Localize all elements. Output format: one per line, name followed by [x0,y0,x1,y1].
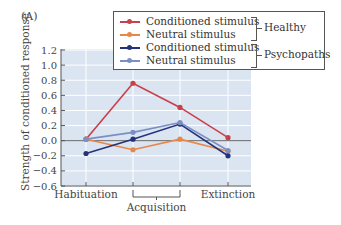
legend-label: Neutral stimulus [146,28,236,40]
y-tick-label: 0.2 [41,120,57,131]
data-point [130,81,135,86]
legend-swatch [120,47,140,49]
data-point [225,135,230,140]
y-tick-label: 1.0 [41,60,57,71]
y-tick-label: 0.8 [41,75,57,86]
data-point [225,153,230,158]
data-point [130,137,135,142]
data-point [130,130,135,135]
legend: Conditioned stimulus Neutral stimulus Co… [113,11,325,70]
bracket-connector [257,55,262,56]
y-tick-label: 0.0 [41,135,57,146]
x-category-label: Acquisition [126,201,187,213]
data-point [83,137,88,142]
legend-label: Conditioned stimulus [146,41,259,53]
y-axis-label: Strength of conditioned response [19,41,31,191]
y-tick-label: 1.2 [41,45,57,56]
x-span-bracket [133,190,180,197]
data-point [225,148,230,153]
legend-item-psychopaths-conditioned: Conditioned stimulus [120,41,259,54]
legend-item-psychopaths-neutral: Neutral stimulus [120,54,236,67]
data-point [177,120,182,125]
legend-item-healthy-neutral: Neutral stimulus [120,28,236,41]
data-point [177,105,182,110]
legend-swatch [120,60,140,62]
bracket-connector [257,28,262,29]
y-tick-label: −0.4 [33,165,57,176]
legend-swatch [120,34,140,36]
legend-label: Conditioned stimulus [146,15,259,27]
data-point [177,137,182,142]
group-bracket-healthy [251,17,257,41]
y-tick-label: 0.4 [41,105,57,116]
x-category-label: Extinction [201,188,256,200]
group-bracket-psychopaths [251,44,257,68]
y-tick-label: −0.2 [33,150,57,161]
y-tick-label: 0.6 [41,90,57,101]
group-label-healthy: Healthy [264,21,306,33]
legend-item-healthy-conditioned: Conditioned stimulus [120,15,259,28]
data-point [130,147,135,152]
x-category-label: Habituation [54,188,118,200]
x-axis-labels: HabituationAcquisitionExtinction [54,188,255,213]
legend-swatch [120,21,140,23]
legend-label: Neutral stimulus [146,54,236,66]
data-point [83,151,88,156]
group-label-psychopaths: Psychopaths [264,48,330,60]
